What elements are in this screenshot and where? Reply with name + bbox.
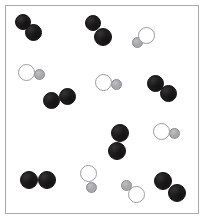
atom-open [128,186,145,203]
atom-dark [59,88,76,105]
atom-open [18,64,35,81]
atom-dark [43,92,60,109]
atom-dark [25,24,42,41]
atom-dark [168,184,186,202]
atom-dark [38,171,56,189]
molecular-diagram-figure [0,0,205,222]
atom-dark [160,85,177,102]
atom-dark [111,124,129,142]
atom-dark [20,171,38,189]
atom-open [80,165,97,182]
atom-gray [169,128,180,139]
atom-open [95,74,112,91]
atom-gray [34,69,45,80]
atom-dark [108,142,126,160]
atom-dark [94,28,112,46]
atom-open [153,123,170,140]
atom-gray [86,182,97,193]
atom-gray [111,79,122,90]
reaction-vessel-frame [5,5,199,214]
atom-open [138,27,155,44]
